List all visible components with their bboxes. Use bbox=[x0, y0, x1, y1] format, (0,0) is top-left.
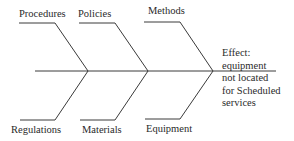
bone-policies bbox=[79, 23, 148, 71]
bone-materials bbox=[80, 71, 148, 120]
bone-methods bbox=[144, 22, 213, 71]
bone-procedures bbox=[19, 23, 88, 71]
cause-policies: Policies bbox=[78, 8, 111, 20]
cause-procedures: Procedures bbox=[19, 8, 66, 20]
effect-line: equipment bbox=[222, 60, 281, 73]
effect-line: not located bbox=[222, 72, 281, 85]
cause-equipment: Equipment bbox=[146, 123, 192, 135]
effect-label: Effect: equipment not located for Schedu… bbox=[222, 47, 281, 110]
effect-line: for Scheduled bbox=[222, 85, 281, 98]
effect-line: services bbox=[222, 97, 281, 110]
cause-materials: Materials bbox=[82, 124, 122, 136]
cause-regulations: Regulations bbox=[11, 124, 61, 136]
bone-regulations bbox=[20, 71, 88, 120]
bone-equipment bbox=[145, 71, 213, 119]
effect-line: Effect: bbox=[222, 47, 281, 60]
cause-methods: Methods bbox=[148, 5, 185, 17]
